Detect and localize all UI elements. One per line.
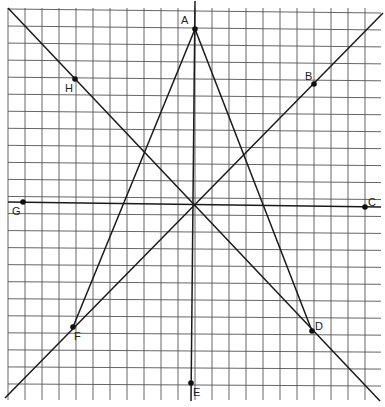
point-label-f: F [74, 330, 81, 342]
point-c [362, 204, 368, 210]
grid-line-horizontal [8, 350, 381, 352]
grid-line-horizontal [8, 316, 381, 318]
point-label-c: C [368, 196, 376, 208]
grid-line-horizontal [8, 179, 381, 182]
point-b [311, 81, 317, 87]
grid-line-horizontal [8, 299, 381, 302]
geometry-diagram: ABCDEFGH [0, 0, 385, 407]
point-d [309, 328, 315, 334]
grid-line-horizontal [8, 333, 381, 335]
grid-line-horizontal [8, 128, 381, 131]
point-f [70, 324, 76, 330]
point-label-a: A [181, 14, 189, 26]
grid-line-horizontal [8, 282, 381, 285]
grid-line-horizontal [8, 367, 381, 369]
point-a [192, 26, 198, 32]
point-label-g: G [12, 205, 21, 217]
grid-line-horizontal [8, 265, 381, 268]
point-label-h: H [65, 82, 73, 94]
grid-line-horizontal [8, 162, 381, 165]
point-e [188, 380, 194, 386]
grid-line-horizontal [8, 145, 381, 148]
point-label-d: D [315, 320, 323, 332]
point-label-e: E [193, 386, 200, 398]
point-h [72, 76, 78, 82]
grid-line-horizontal [8, 196, 381, 199]
point-g [20, 199, 26, 205]
grid-line-horizontal [8, 248, 381, 251]
point-label-b: B [305, 70, 312, 82]
triangle-side-A-D [195, 29, 312, 331]
grid-line-horizontal [8, 214, 381, 217]
grid-line-horizontal [8, 231, 381, 234]
